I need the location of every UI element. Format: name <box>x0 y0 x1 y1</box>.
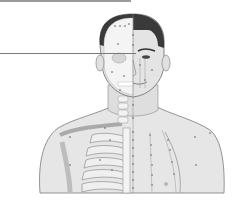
nipple <box>164 182 168 186</box>
right-ear <box>162 55 170 71</box>
skull-eye-socket <box>112 53 126 63</box>
left-ear <box>96 55 104 71</box>
sternum <box>123 128 130 193</box>
skull-teeth <box>118 82 133 86</box>
pointer-leader-line <box>0 53 136 54</box>
anatomy-illustration <box>0 0 244 206</box>
eye <box>142 55 150 59</box>
